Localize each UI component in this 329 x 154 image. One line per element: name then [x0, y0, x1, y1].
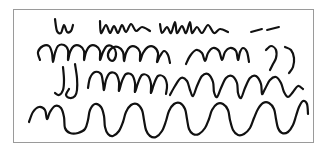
sketch-svg	[0, 0, 329, 154]
sketch-canvas	[0, 0, 329, 154]
